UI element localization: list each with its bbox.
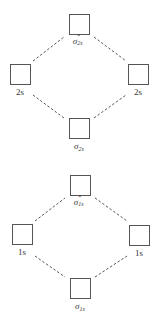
mo-diagram-canvas: σ*2s 2s 2s σ2s σ*1s 1s 1s σ1s xyxy=(0,0,159,323)
connector-lines xyxy=(0,0,159,323)
orbital-box-sigma-2s xyxy=(69,118,90,139)
subscript-2s: 2s xyxy=(79,146,84,152)
dashed-connector-2s-right-to-bonding xyxy=(94,95,126,118)
orbital-box-sigma-star-2s xyxy=(69,14,90,35)
label-sigma-2s: σ2s xyxy=(74,141,84,151)
subscript-2s: 2s xyxy=(77,40,82,46)
dashed-connector-1s-right-to-bonding xyxy=(95,256,127,277)
dashed-connector-2s-left-to-antibonding xyxy=(33,37,64,61)
subscript-1s: 1s xyxy=(78,201,83,207)
label-1s-right: 1s xyxy=(135,248,143,258)
label-2s-right: 2s xyxy=(134,87,142,97)
subscript-1s: 1s xyxy=(80,306,85,312)
label-sigma-1s: σ1s xyxy=(75,301,85,311)
orbital-box-sigma-1s xyxy=(70,278,91,299)
label-sigma-star-2s: σ*2s xyxy=(73,36,85,46)
label-1s-left: 1s xyxy=(18,247,26,257)
orbital-box-sigma-star-1s xyxy=(70,175,91,196)
label-2s-left: 2s xyxy=(16,87,24,97)
label-sigma-star-1s: σ*1s xyxy=(74,197,86,207)
orbital-box-2s-right xyxy=(128,64,149,85)
superscript-star: * xyxy=(77,33,80,39)
dashed-connector-1s-left-to-antibonding xyxy=(35,198,65,221)
dashed-connector-2s-right-to-antibonding xyxy=(94,37,126,61)
orbital-box-1s-left xyxy=(12,224,33,245)
orbital-box-1s-right xyxy=(129,225,150,246)
superscript-star: * xyxy=(78,194,81,200)
dashed-connector-1s-left-to-bonding xyxy=(35,256,65,277)
dashed-connector-1s-right-to-antibonding xyxy=(95,198,127,221)
dashed-connector-2s-left-to-bonding xyxy=(33,95,64,118)
orbital-box-2s-left xyxy=(10,64,31,85)
